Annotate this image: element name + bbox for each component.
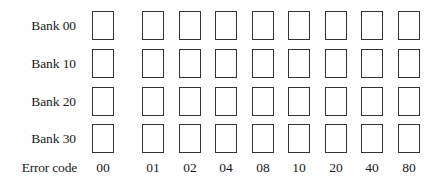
cell-bank10-code40 [361, 49, 383, 78]
cell-bank00-code04 [215, 11, 237, 40]
cell-bank00-code08 [252, 11, 274, 40]
cell-bank00-code01 [142, 11, 164, 40]
cell-bank20-code20 [325, 87, 347, 116]
cell-bank00-code02 [179, 11, 201, 40]
cell-bank10-code08 [252, 49, 274, 78]
cell-bank20-code08 [252, 87, 274, 116]
row-label-bank-30: Bank 30 [0, 131, 76, 147]
col-label-01: 01 [138, 160, 168, 176]
cell-bank20-code80 [398, 87, 420, 116]
cell-bank10-code80 [398, 49, 420, 78]
cell-bank00-code00 [92, 11, 114, 40]
cell-bank10-code04 [215, 49, 237, 78]
cell-bank20-code01 [142, 87, 164, 116]
row-label-bank-10: Bank 10 [0, 56, 76, 72]
cell-bank30-code20 [325, 124, 347, 153]
cell-bank30-code08 [252, 124, 274, 153]
row-label-bank-00: Bank 00 [0, 18, 76, 34]
col-label-40: 40 [357, 160, 387, 176]
cell-bank00-code40 [361, 11, 383, 40]
cell-bank30-code80 [398, 124, 420, 153]
cell-bank30-code04 [215, 124, 237, 153]
row-label-bank-20: Bank 20 [0, 94, 76, 110]
cell-bank00-code10 [288, 11, 310, 40]
col-label-20: 20 [321, 160, 351, 176]
col-label-08: 08 [248, 160, 278, 176]
cell-bank20-code04 [215, 87, 237, 116]
col-label-04: 04 [211, 160, 241, 176]
cell-bank10-code00 [92, 49, 114, 78]
error-code-bank-grid: Bank 00 Bank 10 Bank 20 Bank 30 Error co… [0, 0, 444, 187]
cell-bank30-code02 [179, 124, 201, 153]
col-label-10: 10 [284, 160, 314, 176]
cell-bank20-code40 [361, 87, 383, 116]
cell-bank30-code00 [92, 124, 114, 153]
cell-bank20-code00 [92, 87, 114, 116]
cell-bank10-code10 [288, 49, 310, 78]
cell-bank10-code02 [179, 49, 201, 78]
cell-bank30-code01 [142, 124, 164, 153]
cell-bank30-code40 [361, 124, 383, 153]
col-label-00: 00 [88, 160, 118, 176]
cell-bank00-code20 [325, 11, 347, 40]
cell-bank10-code20 [325, 49, 347, 78]
cell-bank10-code01 [142, 49, 164, 78]
cell-bank20-code10 [288, 87, 310, 116]
col-label-02: 02 [175, 160, 205, 176]
cell-bank20-code02 [179, 87, 201, 116]
cell-bank00-code80 [398, 11, 420, 40]
cell-bank30-code10 [288, 124, 310, 153]
error-code-label: Error code [8, 160, 77, 176]
col-label-80: 80 [394, 160, 424, 176]
